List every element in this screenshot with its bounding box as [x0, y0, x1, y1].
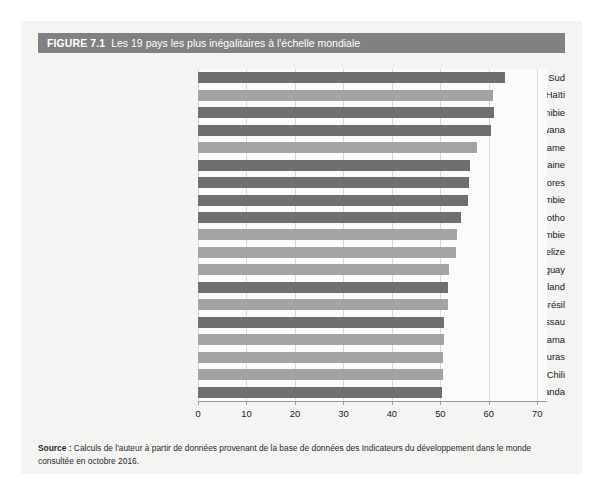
gridline-70 — [537, 69, 538, 401]
tick-mark — [537, 401, 538, 405]
bar — [198, 212, 461, 223]
tick-label: 50 — [435, 408, 445, 419]
bar — [198, 72, 505, 83]
figure-panel: FIGURE 7.1 Les 19 pays les plus inégalit… — [21, 21, 582, 474]
source-label: Source : — [38, 443, 72, 453]
bar — [198, 195, 468, 206]
gridline-60 — [489, 69, 490, 401]
bar — [198, 229, 457, 240]
tick-mark — [198, 401, 199, 405]
chart-area: Afrique du SudHaïtiNamibieBotswanaSurina… — [38, 65, 565, 437]
bar — [198, 282, 448, 293]
bar — [198, 107, 494, 118]
source-text: Calculs de l'auteur à partir de données … — [38, 443, 531, 466]
bar — [198, 299, 448, 310]
source-note: Source : Calculs de l'auteur à partir de… — [38, 442, 565, 468]
tick-mark — [246, 401, 247, 405]
tick-mark — [392, 401, 393, 405]
bar — [198, 247, 456, 258]
plot-wrapper: Afrique du SudHaïtiNamibieBotswanaSurina… — [38, 65, 565, 415]
bar — [198, 334, 444, 345]
tick-label: 30 — [338, 408, 348, 419]
x-axis-line — [198, 401, 547, 402]
figure-header: FIGURE 7.1 Les 19 pays les plus inégalit… — [38, 33, 565, 53]
bar — [198, 160, 470, 171]
plot-area — [198, 69, 547, 401]
bar — [198, 369, 443, 380]
tick-label: 70 — [532, 408, 542, 419]
bar — [198, 317, 444, 328]
tick-mark — [440, 401, 441, 405]
tick-label: 60 — [484, 408, 494, 419]
tick-mark — [295, 401, 296, 405]
bar — [198, 177, 469, 188]
bar — [198, 125, 491, 136]
tick-label: 40 — [387, 408, 397, 419]
tick-mark — [343, 401, 344, 405]
bar — [198, 264, 449, 275]
tick-label: 0 — [195, 408, 200, 419]
figure-title: Les 19 pays les plus inégalitaires à l'é… — [111, 37, 360, 49]
tick-label: 20 — [290, 408, 300, 419]
tick-mark — [489, 401, 490, 405]
bar — [198, 142, 477, 153]
bar — [198, 352, 443, 363]
tick-label: 10 — [241, 408, 251, 419]
bar — [198, 90, 493, 101]
figure-number: FIGURE 7.1 — [47, 37, 105, 49]
bar — [198, 387, 442, 398]
